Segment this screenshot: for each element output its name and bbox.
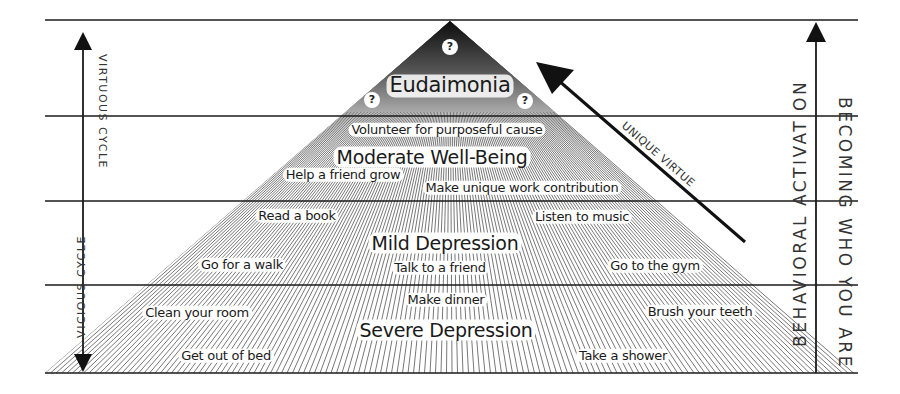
activity-label: Make unique work contribution (423, 181, 622, 195)
activity-label: Help a friend grow (283, 168, 404, 182)
level-title-eudaimonia: Eudaimonia (387, 74, 514, 97)
activity-label: Go to the gym (607, 259, 703, 273)
level-title-mild-depression: Mild Depression (369, 233, 522, 254)
unknown-marker: ? (442, 39, 458, 55)
activity-label: Make dinner (405, 293, 488, 307)
activity-label: Take a shower (576, 349, 670, 363)
unknown-marker: ? (517, 93, 533, 109)
activity-label: Volunteer for purposeful cause (348, 123, 545, 137)
activity-label: Read a book (255, 209, 338, 223)
activity-label: Talk to a friend (391, 261, 489, 275)
activity-label: Get out of bed (178, 349, 274, 363)
vicious-cycle-label: VICIOUS CYCLE (75, 232, 88, 342)
becoming-who-you-are-label: BECOMING WHO YOU ARE (835, 97, 855, 347)
activity-label: Brush your teeth (645, 305, 756, 319)
behavioral-activation-label: BEHAVIORAL ACTIVAT ON (790, 97, 810, 347)
level-title-severe-depression: Severe Depression (357, 320, 536, 341)
unknown-marker: ? (364, 92, 380, 108)
arrow-up-icon (74, 32, 92, 50)
activity-label: Listen to music (532, 210, 632, 224)
level-title-moderate-well-being: Moderate Well-Being (334, 147, 531, 168)
activity-label: Clean your room (142, 306, 252, 320)
arrow-up-icon (806, 22, 826, 42)
virtuous-cycle-label: VIRTUOUS CYCLE (96, 52, 109, 172)
activity-label: Go for a walk (198, 258, 286, 272)
